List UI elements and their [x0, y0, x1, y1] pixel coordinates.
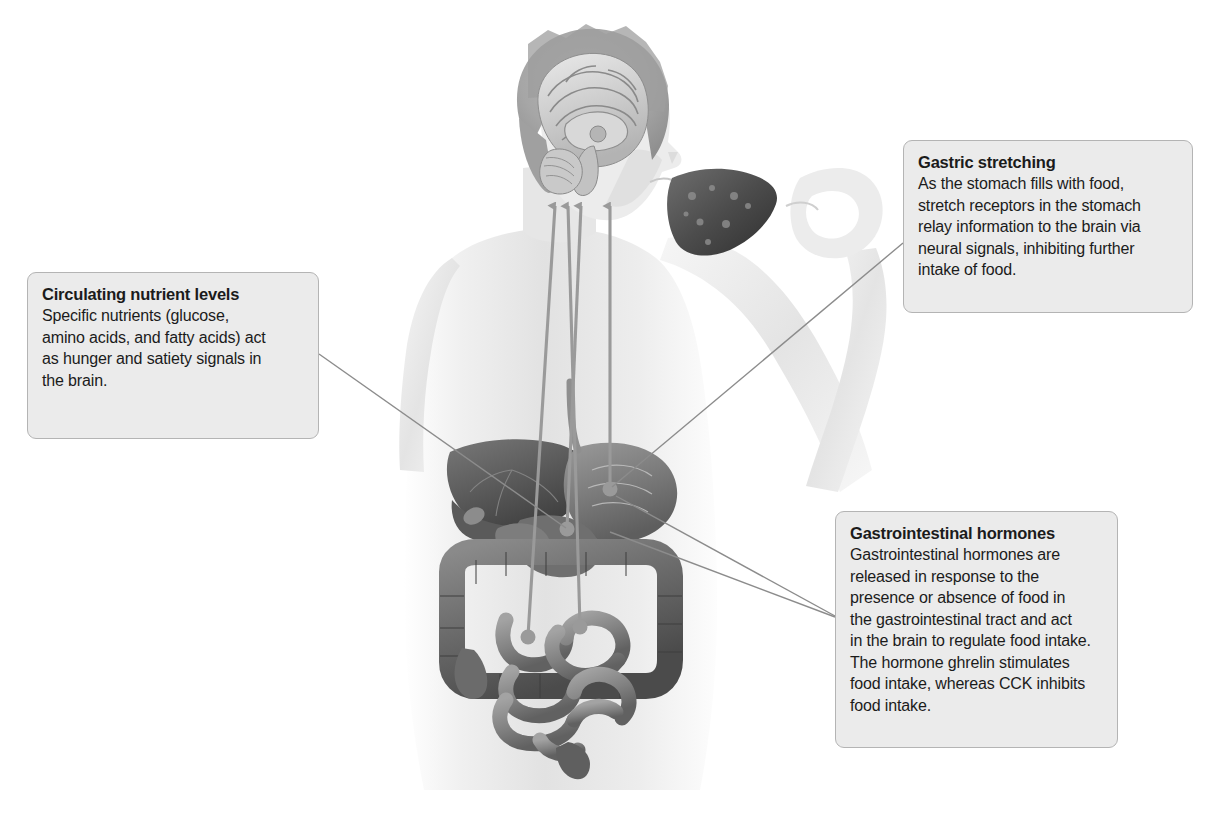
callout-gastrointestinal-hormones[interactable]: Gastrointestinal hormones Gastrointestin…: [835, 511, 1118, 748]
figure-canvas: Circulating nutrient levels Specific nut…: [0, 0, 1218, 814]
callout-title: Gastrointestinal hormones: [850, 523, 1104, 543]
callout-body: As the stomach fills with food, stretch …: [918, 173, 1179, 281]
callout-gastric-stretching[interactable]: Gastric stretching As the stomach fills …: [903, 140, 1193, 313]
callout-title: Gastric stretching: [918, 152, 1179, 172]
food-item: [667, 169, 777, 256]
callout-title: Circulating nutrient levels: [42, 284, 305, 304]
hand: [786, 168, 883, 258]
callout-body: Specific nutrients (glucose, amino acids…: [42, 305, 305, 391]
callout-body: Gastrointestinal hormones are released i…: [850, 544, 1104, 716]
callout-circulating-nutrient-levels[interactable]: Circulating nutrient levels Specific nut…: [27, 272, 319, 439]
